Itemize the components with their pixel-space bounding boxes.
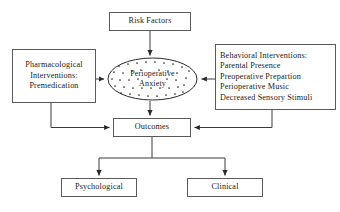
node-pharmacological-interventions: Pharmacological Interventions: Premedica… bbox=[12, 49, 96, 103]
node-anxiety-line-2: Anxiety bbox=[139, 79, 166, 89]
node-clinical: Clinical bbox=[187, 178, 263, 197]
node-clinical-label: Clinical bbox=[188, 182, 262, 192]
node-behavioral-line-5: Decreased Sensory Stimuli bbox=[220, 93, 335, 103]
node-risk-factors-label: Risk Factors bbox=[110, 16, 190, 26]
anxiety-label-group: Perioperative Anxiety bbox=[107, 57, 198, 101]
node-pharmacological-line-1: Pharmacological bbox=[13, 60, 95, 70]
node-anxiety-line-1: Perioperative bbox=[130, 69, 175, 79]
node-perioperative-anxiety: Perioperative Anxiety bbox=[107, 57, 198, 101]
edge-outcomes-to-children bbox=[99, 137, 225, 176]
node-behavioral-interventions: Behavioral Interventions: Parental Prese… bbox=[215, 44, 336, 110]
node-psychological-label: Psychological bbox=[62, 182, 136, 192]
node-outcomes-label: Outcomes bbox=[114, 122, 190, 132]
node-pharmacological-line-2: Interventions: bbox=[13, 71, 95, 81]
node-pharmacological-line-3: Premedication bbox=[13, 81, 95, 91]
diagram-canvas: Risk Factors Pharmacological Interventio… bbox=[0, 0, 340, 212]
edge-behavioral-to-outcomes bbox=[195, 110, 273, 128]
node-outcomes: Outcomes bbox=[113, 118, 191, 137]
node-behavioral-line-3: Preoperative Prepartion bbox=[220, 72, 335, 82]
node-psychological: Psychological bbox=[61, 178, 137, 197]
node-behavioral-line-4: Perioperative Music bbox=[220, 82, 335, 92]
node-behavioral-line-2: Parental Presence bbox=[220, 61, 335, 71]
node-risk-factors: Risk Factors bbox=[109, 12, 191, 31]
node-behavioral-line-1: Behavioral Interventions: bbox=[220, 51, 335, 61]
edge-pharmacological-to-outcomes bbox=[51, 103, 110, 128]
